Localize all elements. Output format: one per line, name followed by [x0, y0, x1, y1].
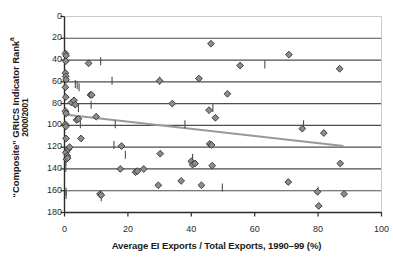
data-point [118, 143, 125, 150]
data-point [337, 160, 344, 167]
data-point [224, 90, 231, 97]
data-point [341, 191, 348, 198]
data-point [336, 65, 343, 72]
data-point [286, 51, 293, 58]
data-point [156, 77, 163, 84]
axis-lines [65, 17, 382, 213]
data-point [117, 166, 124, 173]
gridlines [65, 17, 382, 213]
data-point [198, 182, 205, 189]
data-point [285, 179, 292, 186]
data-point [169, 100, 176, 107]
data-point [314, 188, 321, 195]
data-point [315, 203, 322, 210]
plot-area [0, 0, 393, 264]
data-point [78, 135, 85, 142]
data-point [62, 94, 69, 101]
data-point [157, 150, 164, 157]
data-point [85, 60, 92, 67]
data-point [212, 114, 219, 121]
data-point [206, 107, 213, 114]
data-point [237, 62, 244, 69]
data-point [140, 166, 147, 173]
scatter-chart: “Composite” GRICS Indicator Ranka 2000/2… [0, 0, 393, 264]
data-point [299, 125, 306, 132]
data-point [196, 75, 203, 82]
data-point [63, 135, 70, 142]
x-axis-label: Average EI Exports / Total Exports, 1990… [40, 240, 393, 251]
data-point [155, 182, 162, 189]
data-point [208, 40, 215, 47]
data-point [178, 178, 185, 185]
data-point [320, 130, 327, 137]
data-point [209, 162, 216, 169]
data-point [62, 84, 69, 91]
data-point [62, 58, 69, 65]
